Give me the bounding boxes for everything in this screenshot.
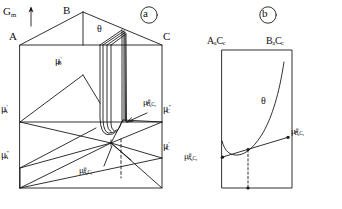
tie-line-bottomleft-center xyxy=(20,143,111,188)
label-mu-theta-aacc-panel-b: μθAaCc xyxy=(184,152,197,162)
panel-b-theta-label: θ xyxy=(261,96,266,106)
tie-line-muAprime-center xyxy=(20,122,111,143)
label-mu-a-double-prime: μ"A xyxy=(1,150,8,161)
theta-strand-7 xyxy=(125,33,126,122)
theta-strand-4 xyxy=(111,45,114,131)
tangent-point-right-dot xyxy=(286,136,289,139)
label-mu-theta-aacc-panel-a: μθAaCc xyxy=(79,166,92,176)
tie-line-center-muCdbl xyxy=(111,122,162,143)
panel-a-theta-label: θ xyxy=(97,24,102,34)
panel-a-triangle-bc xyxy=(83,12,162,45)
vertex-label-b: B xyxy=(63,5,70,16)
theta-strand-8 xyxy=(126,34,127,122)
label-mu-theta-bacc-panel-b: μθBaCc xyxy=(291,127,304,137)
gm-axis-label: Gm xyxy=(3,6,16,18)
label-mu-theta-bacc-panel-a: μθBaCc xyxy=(143,98,156,108)
tangent-point-left-dot xyxy=(221,156,224,159)
gibbs-energy-figure xyxy=(0,0,342,209)
panel-a-triangle-ab xyxy=(20,12,83,45)
tie-line-center-muCprime xyxy=(111,143,162,158)
vertex-label-c: C xyxy=(163,31,170,42)
tie-line-muAdbl-center xyxy=(20,143,111,168)
common-tangent-line xyxy=(221,137,289,158)
panel-a-tag-label: a xyxy=(143,8,148,19)
panel-b-top-left-label: AaCc xyxy=(207,36,225,47)
panel-b-box xyxy=(222,50,292,188)
label-mu-b-prime: μ'B xyxy=(55,56,62,67)
label-mu-a-prime: μ'A xyxy=(1,104,8,115)
label-mu-c-prime: μ'C xyxy=(163,141,170,152)
label-mu-c-double-prime: μ"C xyxy=(163,104,170,115)
theta-strand-5 xyxy=(122,30,123,122)
vertex-label-a: A xyxy=(9,31,17,42)
panel-b-top-right-label: BaCc xyxy=(266,36,284,47)
theta-strand-2 xyxy=(103,45,117,133)
pointer-to-mu-theta-AaCc xyxy=(104,146,112,166)
tie-line-muBprime-muAprime xyxy=(20,75,83,122)
tie-line-muAdbl-upper xyxy=(20,128,96,168)
tie-line-muBprime-theta xyxy=(83,75,100,103)
theta-strand-3 xyxy=(107,45,111,131)
panel-b-tag-label: b xyxy=(262,8,268,19)
panel-a-graphics xyxy=(20,7,162,189)
